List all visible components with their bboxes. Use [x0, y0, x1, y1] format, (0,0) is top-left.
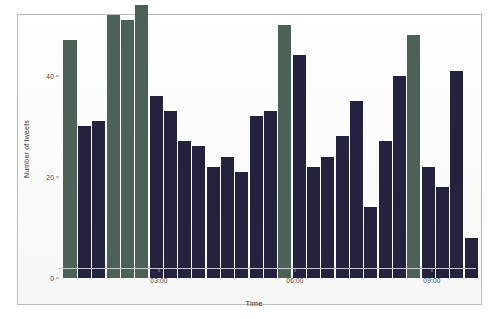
- bar: [207, 167, 220, 278]
- plot-area: [61, 25, 473, 278]
- bar: [235, 172, 248, 278]
- y-tick-label: 0: [32, 275, 54, 282]
- bar: [422, 167, 435, 278]
- x-axis-line: [58, 268, 476, 269]
- bar: [350, 101, 363, 278]
- bar: [221, 157, 234, 278]
- bar: [78, 126, 91, 278]
- y-tick-label: 40: [32, 72, 54, 79]
- bar: [436, 187, 449, 278]
- bar: [150, 96, 163, 278]
- bar: [450, 71, 463, 278]
- bar: [164, 111, 177, 278]
- bar: [465, 238, 478, 278]
- x-axis-label: Time: [245, 299, 262, 308]
- bar: [178, 141, 191, 278]
- bar: [336, 136, 349, 278]
- bar: [393, 76, 406, 278]
- bar: [407, 35, 420, 278]
- bar: [92, 121, 105, 278]
- y-tick-mark: [56, 278, 59, 279]
- bar: [135, 5, 148, 278]
- bar: [264, 111, 277, 278]
- chart-frame: Number of tweets 02040 03:0006:0009:00 T…: [17, 14, 482, 305]
- bar: [107, 15, 120, 278]
- x-tick-label: 06:00: [286, 277, 303, 284]
- bar: [250, 116, 263, 278]
- x-tick-mark: [432, 269, 433, 272]
- x-tick-mark: [159, 269, 160, 272]
- x-tick-label: 03:00: [150, 277, 167, 284]
- x-tick-mark: [295, 269, 296, 272]
- bar: [379, 141, 392, 278]
- x-tick-label: 09:00: [423, 277, 440, 284]
- bar: [192, 146, 205, 278]
- y-tick-mark: [56, 176, 59, 177]
- y-axis-label: Number of tweets: [23, 120, 30, 178]
- y-tick-mark: [56, 75, 59, 76]
- bar: [321, 157, 334, 278]
- y-tick-label: 20: [32, 173, 54, 180]
- bar: [293, 55, 306, 278]
- bar: [278, 25, 291, 278]
- bar: [63, 40, 77, 278]
- bar: [121, 20, 134, 278]
- bar: [307, 167, 320, 278]
